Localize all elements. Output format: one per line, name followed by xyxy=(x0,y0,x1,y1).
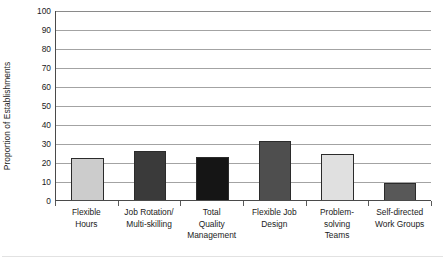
x-category-label-line: Total xyxy=(181,207,242,219)
x-category-label-line: Multi-skilling xyxy=(119,219,180,231)
x-category-label: Self-directedWork Groups xyxy=(368,207,431,255)
bar-chart-figure: Proportion of Establishments 10090807060… xyxy=(0,0,445,263)
y-tick-label: 60 xyxy=(28,83,51,92)
x-category-label: TotalQualityManagement xyxy=(180,207,243,255)
bar-cell xyxy=(306,11,369,200)
y-tick-label: 100 xyxy=(28,7,51,16)
bar[interactable] xyxy=(196,157,229,200)
bar[interactable] xyxy=(259,141,292,200)
x-category-label-line: solving xyxy=(307,219,368,231)
x-category-label: Problem-solvingTeams xyxy=(306,207,369,255)
bar[interactable] xyxy=(321,154,354,200)
x-category-label-line: Problem- xyxy=(307,207,368,219)
bar-series xyxy=(56,11,431,200)
x-category-label-line: Design xyxy=(244,219,305,231)
y-tick-label: 10 xyxy=(28,178,51,187)
x-tick-mark xyxy=(118,201,119,206)
x-category-label-line: Quality xyxy=(181,219,242,231)
bar-cell xyxy=(181,11,244,200)
x-tick-mark xyxy=(243,201,244,206)
y-axis-tick-labels: 1009080706050403020100 xyxy=(28,11,51,201)
bar-cell xyxy=(56,11,119,200)
bar[interactable] xyxy=(384,183,417,200)
x-tick-mark xyxy=(431,201,432,206)
y-tick-label: 0 xyxy=(28,197,51,206)
y-tick-label: 20 xyxy=(28,159,51,168)
y-tick-label: 40 xyxy=(28,121,51,130)
x-category-label-line: Work Groups xyxy=(369,219,430,231)
x-category-label: Job Rotation/Multi-skilling xyxy=(118,207,181,255)
x-tick-mark xyxy=(306,201,307,206)
x-tick-mark xyxy=(180,201,181,206)
x-axis-category-labels: FlexibleHoursJob Rotation/Multi-skilling… xyxy=(55,207,431,255)
x-category-label-line: Flexible Job xyxy=(244,207,305,219)
y-tick-label: 70 xyxy=(28,64,51,73)
x-category-label-line: Job Rotation/ xyxy=(119,207,180,219)
y-tick-label: 90 xyxy=(28,26,51,35)
bar-cell xyxy=(369,11,432,200)
figure-bottom-rule xyxy=(2,256,443,257)
x-axis-tick-marks xyxy=(55,201,431,206)
x-category-label: FlexibleHours xyxy=(55,207,118,255)
x-category-label-line: Self-directed xyxy=(369,207,430,219)
x-tick-mark xyxy=(368,201,369,206)
x-category-label-line: Management xyxy=(181,230,242,242)
x-category-label: Flexible JobDesign xyxy=(243,207,306,255)
plot-area xyxy=(55,11,431,201)
x-category-label-line: Flexible xyxy=(56,207,117,219)
y-tick-label: 80 xyxy=(28,45,51,54)
y-tick-label: 50 xyxy=(28,102,51,111)
y-axis-title: Proportion of Establishments xyxy=(0,13,14,219)
y-tick-label: 30 xyxy=(28,140,51,149)
bar[interactable] xyxy=(134,151,167,200)
bar[interactable] xyxy=(71,158,104,200)
x-category-label-line: Teams xyxy=(307,230,368,242)
bar-cell xyxy=(119,11,182,200)
x-tick-mark xyxy=(55,201,56,206)
bar-cell xyxy=(244,11,307,200)
x-category-label-line: Hours xyxy=(56,219,117,231)
